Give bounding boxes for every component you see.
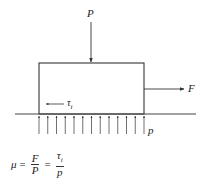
formula-fraction-stress: τi p: [56, 150, 64, 178]
formula-frac2-numerator: τi: [56, 150, 64, 167]
pressure-label: p: [148, 125, 154, 136]
pressure-arrows: [39, 116, 144, 134]
applied-force-label: F: [188, 83, 195, 94]
shear-stress-label: τi: [67, 98, 73, 111]
friction-coefficient-formula: μ = F P = τi p: [11, 150, 66, 178]
formula-frac1-numerator: F: [31, 153, 40, 165]
formula-equals-2: =: [44, 158, 50, 170]
formula-tau-subscript: i: [61, 156, 63, 164]
block: [39, 63, 144, 114]
formula-equals-1: =: [20, 158, 26, 170]
shear-stress-subscript: i: [71, 103, 73, 111]
normal-force-label: P: [87, 8, 94, 19]
formula-frac2-denominator: p: [57, 167, 63, 178]
formula-frac1-denominator: P: [32, 165, 39, 176]
formula-fraction-force: F P: [31, 153, 40, 176]
formula-mu: μ: [11, 158, 17, 170]
